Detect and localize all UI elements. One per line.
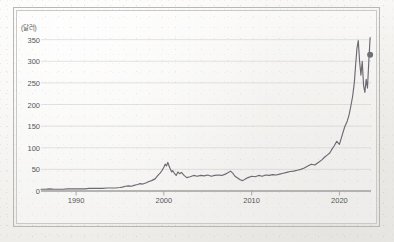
x-axis-labels: 1990200020102020	[0, 196, 394, 214]
x-axis-tick-marks	[76, 191, 339, 196]
gridlines	[41, 40, 371, 191]
y-axis-tick-label: 250	[14, 78, 40, 87]
y-axis-tick-label: 0	[14, 187, 40, 196]
y-axis-tick-label: 350	[14, 35, 40, 44]
x-axis-tick-label: 2000	[144, 196, 184, 205]
y-axis-tick-label: 200	[14, 100, 40, 109]
y-axis-tick-label: 50	[14, 165, 40, 174]
end-point-marker	[367, 52, 373, 58]
x-axis-tick-label: 2020	[319, 196, 359, 205]
price-line	[41, 37, 370, 189]
x-axis-tick-label: 2010	[232, 196, 272, 205]
y-axis-tick-label: 100	[14, 143, 40, 152]
y-axis-tick-label: 150	[14, 122, 40, 131]
x-axis-tick-label: 1990	[56, 196, 96, 205]
y-axis-tick-label: 300	[14, 57, 40, 66]
